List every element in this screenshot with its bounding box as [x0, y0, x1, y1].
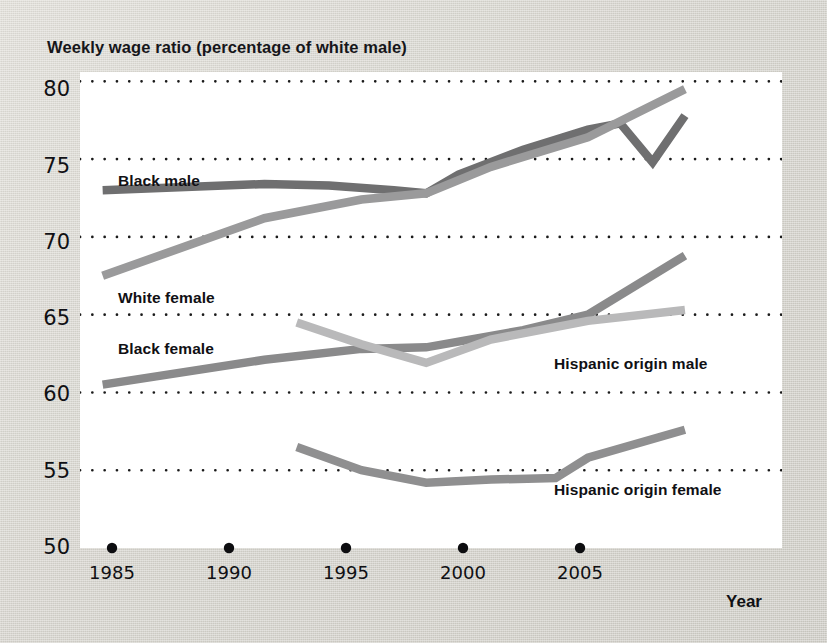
ytick-label-65: 65	[24, 306, 70, 330]
series-label-black-female: Black female	[118, 340, 214, 358]
ytick-label-50: 50	[24, 535, 70, 559]
plot-area	[80, 72, 782, 548]
wage-ratio-line-chart: Weekly wage ratio (percentage of white m…	[0, 0, 827, 643]
ytick-label-55: 55	[24, 459, 70, 483]
ytick-label-70: 70	[24, 230, 70, 254]
series-lines	[103, 89, 685, 483]
gridlines	[80, 81, 782, 470]
xtick-label-1995: 1995	[323, 562, 369, 583]
xtick-label-2000: 2000	[440, 562, 486, 583]
ytick-label-60: 60	[24, 382, 70, 406]
xaxis-title: Year	[726, 592, 762, 612]
series-label-hispanic-female: Hispanic origin female	[554, 481, 722, 499]
series-line-hispanic-origin-female	[297, 430, 685, 483]
chart-title: Weekly wage ratio (percentage of white m…	[47, 38, 407, 57]
series-label-hispanic-male: Hispanic origin male	[554, 355, 708, 373]
xtick-label-1985: 1985	[89, 562, 135, 583]
ytick-label-75: 75	[24, 154, 70, 178]
ytick-label-80: 80	[24, 77, 70, 101]
series-label-black-male: Black male	[118, 172, 200, 190]
plot-canvas	[80, 72, 782, 548]
xtick-label-2005: 2005	[557, 562, 603, 583]
xtick-label-1990: 1990	[206, 562, 252, 583]
series-label-white-female: White female	[118, 289, 215, 307]
